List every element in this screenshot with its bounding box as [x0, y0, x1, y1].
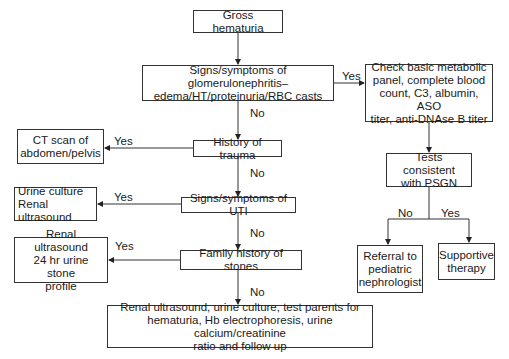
node-glomerulonephritis: Signs/symptoms of glomerulonephritis– ed… — [142, 65, 334, 101]
node-uti: Signs/symptoms of UTI — [181, 197, 296, 213]
node-supportive: Supportive therapy — [438, 243, 495, 280]
node-check-labs: Check basic metabolic panel, complete bl… — [365, 64, 493, 122]
label-stones-no: No — [250, 286, 265, 299]
label-trauma-yes: Yes — [114, 135, 133, 148]
node-ct-scan: CT scan of abdomen/pelvis — [17, 129, 104, 164]
node-final-workup: Renal ultrasound, urine culture, test pa… — [107, 305, 373, 348]
label-glom-no: No — [250, 107, 265, 120]
label-uti-yes: Yes — [114, 191, 133, 204]
label-trauma-no: No — [250, 167, 265, 180]
node-gross-hematuria: Gross hematuria — [193, 10, 283, 33]
node-renal-stone: Renal ultrasound 24 hr urine stone profi… — [14, 237, 108, 283]
node-referral: Referral to pediatric nephrologist — [357, 245, 423, 293]
node-tests-psgn: Tests consistent with PSGN — [386, 153, 472, 187]
label-stones-yes: Yes — [115, 240, 134, 253]
node-history-trauma: History of trauma — [193, 140, 282, 157]
node-urine-culture: Urine culture Renal ultrasound — [14, 187, 97, 221]
label-uti-no: No — [250, 227, 265, 240]
label-psgn-no: No — [398, 207, 413, 220]
label-psgn-yes: Yes — [441, 207, 460, 220]
node-family-stones: Family history of stones — [180, 250, 302, 270]
label-glom-yes: Yes — [342, 70, 361, 83]
